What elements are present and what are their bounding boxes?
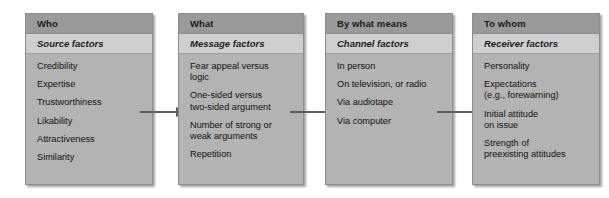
list-item: One-sided versus two-sided argument	[190, 90, 297, 112]
connector-line	[290, 111, 330, 113]
list-item: On television, or radio	[337, 79, 446, 90]
stage-header-what: What	[179, 14, 303, 34]
stage-box-by-what-means[interactable]: By what means Channel factors In person …	[325, 13, 453, 185]
stage-box-what[interactable]: What Message factors Fear appeal versus …	[178, 13, 304, 185]
flow-diagram: Who Source factors Credibility Expertise…	[0, 0, 609, 198]
stage-box-to-whom[interactable]: To whom Receiver factors Personality Exp…	[472, 13, 600, 185]
stage-body-to-whom: Personality Expectations (e.g., forewarn…	[473, 54, 599, 166]
list-item: Attractiveness	[37, 134, 146, 145]
stage-subheader-label: Source factors	[37, 38, 104, 49]
list-item: Via computer	[337, 116, 446, 127]
list-item: Personality	[484, 61, 593, 72]
stage-subheader-message-factors: Message factors	[179, 34, 303, 54]
stage-body-by-what-means: In person On television, or radio Via au…	[326, 54, 452, 133]
stage-subheader-source-factors: Source factors	[26, 34, 152, 54]
stage-header-by-what-means: By what means	[326, 14, 452, 34]
connector-line	[140, 111, 180, 113]
stage-body-what: Fear appeal versus logic One-sided versu…	[179, 54, 303, 166]
stage-header-label: To whom	[484, 18, 526, 29]
stage-subheader-channel-factors: Channel factors	[326, 34, 452, 54]
list-item: Repetition	[190, 149, 297, 160]
stage-header-label: By what means	[337, 18, 407, 29]
list-item: Expectations (e.g., forewarning)	[484, 79, 593, 101]
list-item: Fear appeal versus logic	[190, 61, 297, 83]
list-item: Expertise	[37, 79, 146, 90]
list-item: Similarity	[37, 152, 146, 163]
stage-body-who: Credibility Expertise Trustworthiness Li…	[26, 54, 152, 169]
list-item: In person	[337, 61, 446, 72]
stage-subheader-label: Message factors	[190, 38, 264, 49]
stage-box-who[interactable]: Who Source factors Credibility Expertise…	[25, 13, 153, 185]
stage-subheader-label: Receiver factors	[484, 38, 558, 49]
stage-header-label: What	[190, 18, 214, 29]
list-item: Strength of preexisting attitudes	[484, 138, 593, 160]
stage-header-to-whom: To whom	[473, 14, 599, 34]
list-item: Credibility	[37, 61, 146, 72]
list-item: Number of strong or weak arguments	[190, 120, 297, 142]
stage-subheader-label: Channel factors	[337, 38, 409, 49]
stage-header-label: Who	[37, 18, 58, 29]
list-item: Via audiotape	[337, 97, 446, 108]
list-item: Likability	[37, 116, 146, 127]
stage-header-who: Who	[26, 14, 152, 34]
list-item: Initial attitude on issue	[484, 109, 593, 131]
stage-subheader-receiver-factors: Receiver factors	[473, 34, 599, 54]
connector-line	[437, 111, 477, 113]
list-item: Trustworthiness	[37, 97, 146, 108]
